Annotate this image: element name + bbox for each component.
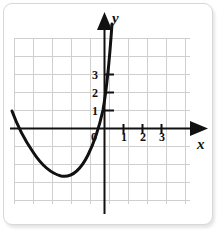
origin-label: 0	[88, 130, 100, 145]
x-tick-label-1: 1	[118, 130, 130, 145]
grid-lines	[14, 38, 190, 204]
y-axis-arrow-icon	[97, 12, 112, 30]
y-axis-label: y	[112, 10, 119, 27]
axis-ticks	[104, 75, 162, 135]
x-axis-label: x	[197, 136, 205, 153]
y-tick-label-3: 3	[89, 68, 101, 83]
y-tick-label-2: 2	[89, 86, 101, 101]
x-tick-label-2: 2	[137, 130, 149, 145]
x-tick-label-3: 3	[156, 130, 168, 145]
x-axis-arrow-icon	[190, 121, 208, 136]
graph-plot-area: y x 0 1 2 3 1 2 3	[0, 0, 224, 233]
coordinate-graph-svg	[0, 0, 224, 233]
y-tick-label-1: 1	[89, 104, 101, 119]
